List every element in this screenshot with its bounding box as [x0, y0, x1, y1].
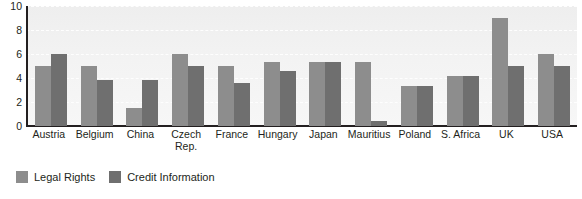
x-axis-category-labels: AustriaBelgiumChinaCzech Rep.FranceHunga… [26, 129, 577, 159]
bar-group [126, 6, 158, 126]
bar-group [172, 6, 204, 126]
y-tick-label: 2 [0, 97, 22, 108]
bar [142, 80, 158, 126]
y-tick-label: 10 [0, 1, 22, 12]
bar [492, 18, 508, 126]
legend-entry[interactable]: Legal Rights [16, 171, 95, 183]
legend-label: Legal Rights [34, 171, 95, 183]
bar [35, 66, 51, 126]
bar [218, 66, 234, 126]
bar [554, 66, 570, 126]
legend-entry[interactable]: Credit Information [109, 171, 214, 183]
bar-group [355, 6, 387, 126]
bar [188, 66, 204, 126]
y-tick-label: 8 [0, 25, 22, 36]
bar [280, 71, 296, 126]
bar [371, 121, 387, 126]
bar [401, 86, 417, 126]
bar [417, 86, 433, 126]
bar [309, 62, 325, 126]
legend-swatch-icon [16, 171, 28, 183]
legend-swatch-icon [109, 171, 121, 183]
bar [51, 54, 67, 126]
bar-group [309, 6, 341, 126]
legend-label: Credit Information [127, 171, 214, 183]
bar [325, 62, 341, 126]
bar-series-layer [28, 6, 577, 126]
bar [264, 62, 280, 126]
bar [508, 66, 524, 126]
bar-group [81, 6, 113, 126]
bar [234, 83, 250, 126]
bar [81, 66, 97, 126]
y-tick-label: 6 [0, 49, 22, 60]
bar-group [447, 6, 479, 126]
bar [463, 76, 479, 126]
bar [355, 62, 371, 126]
bar [172, 54, 188, 126]
x-tick-label: USA [525, 129, 579, 141]
bar-group [401, 6, 433, 126]
bar [447, 76, 463, 126]
bar-chart: 1086420 AustriaBelgiumChinaCzech Rep.Fra… [0, 0, 582, 199]
bar-group [492, 6, 524, 126]
bar-group [35, 6, 67, 126]
bar [126, 108, 142, 126]
bar-group [218, 6, 250, 126]
bar-group [264, 6, 296, 126]
bar-group [538, 6, 570, 126]
bar [538, 54, 554, 126]
chart-legend: Legal RightsCredit Information [16, 171, 215, 183]
y-tick-label: 0 [0, 121, 22, 132]
bar [97, 80, 113, 126]
y-tick-label: 4 [0, 73, 22, 84]
